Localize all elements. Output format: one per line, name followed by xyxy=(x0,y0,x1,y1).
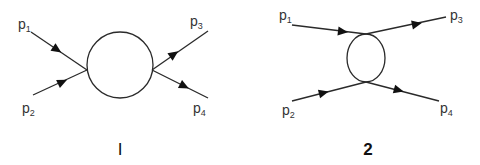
feynman-diagrams: p1 p2 p3 p4 I p1 p2 p3 p4 2 xyxy=(0,0,480,165)
leg-p3-arrow-icon xyxy=(167,48,180,61)
loop-ellipse xyxy=(347,34,385,82)
label-p4: p4 xyxy=(193,100,206,118)
leg-p4-arrow-icon xyxy=(178,80,191,93)
leg-p2-arrow-icon xyxy=(318,87,330,98)
label-p1: p1 xyxy=(18,16,31,34)
label-p3: p3 xyxy=(190,13,203,31)
leg-p3-line xyxy=(366,17,446,34)
label-p2: p2 xyxy=(22,100,35,118)
label-p2: p2 xyxy=(282,102,295,120)
label-p1: p1 xyxy=(279,7,292,25)
leg-p3-arrow-icon xyxy=(411,19,423,30)
loop-circle xyxy=(87,32,153,98)
leg-p3-line xyxy=(152,31,208,70)
caption-1: I xyxy=(118,140,123,159)
label-p4: p4 xyxy=(440,100,453,118)
leg-p1-line xyxy=(292,25,366,34)
diagram-2: p1 p2 p3 p4 2 xyxy=(279,7,463,159)
label-p3: p3 xyxy=(450,7,463,25)
leg-p1-arrow-icon xyxy=(337,27,348,37)
leg-p4-arrow-icon xyxy=(393,85,405,96)
leg-p1-arrow-icon xyxy=(50,43,63,56)
diagram-1: p1 p2 p3 p4 I xyxy=(18,13,208,159)
caption-2: 2 xyxy=(363,140,372,159)
leg-p2-arrow-icon xyxy=(56,76,69,88)
leg-p2-line xyxy=(292,82,366,101)
